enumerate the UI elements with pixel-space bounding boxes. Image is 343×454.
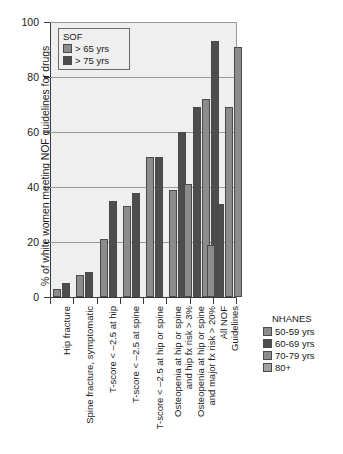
y-tick-label: 80 — [0, 72, 39, 83]
bar — [155, 157, 163, 297]
bar — [225, 107, 233, 297]
x-tick-mark — [73, 298, 74, 304]
y-tick-label: 100 — [0, 17, 39, 28]
x-tick-mark — [236, 298, 237, 304]
y-tick-label: 40 — [0, 182, 39, 193]
x-category-label-line: Spine fracture, symptomatic — [85, 306, 96, 424]
bar — [109, 201, 117, 297]
bar — [216, 204, 224, 298]
bar-chart-figure: % of white women meeting NOF guidelines … — [0, 0, 343, 454]
x-category-label-line: T-score < –2.5 at hip — [108, 306, 119, 393]
legend-nhanes-entry-3: 80+ — [263, 362, 341, 373]
legend-swatch-icon — [63, 56, 72, 65]
legend-swatch-icon — [263, 339, 272, 348]
x-tick-mark — [213, 298, 214, 304]
x-category-label-line: T-score < –2.5 at hip or spine — [155, 306, 166, 429]
x-category-label-line: and major fx risk > 20% — [207, 306, 218, 417]
bar — [207, 245, 215, 297]
bar — [85, 272, 93, 297]
x-tick-mark — [97, 298, 98, 304]
legend-nhanes-label-3: 80+ — [275, 362, 291, 373]
legend-swatch-icon — [263, 351, 272, 360]
legend-nhanes-entry-2: 70-79 yrs — [263, 350, 341, 361]
legend-nhanes-entry-1: 60-69 yrs — [263, 338, 341, 349]
x-category-label: Osteopenia at hip or spineand major fx r… — [196, 306, 217, 417]
x-category-label: T-score < –2.5 at spine — [131, 306, 142, 403]
bar — [76, 275, 84, 297]
bar — [53, 289, 61, 297]
y-tick-label: 60 — [0, 127, 39, 138]
x-category-label: Osteopenia at hip or spineand hip fx ris… — [173, 306, 194, 417]
bar — [132, 193, 140, 298]
y-tick-label: 0 — [0, 292, 39, 303]
legend-nhanes-entry-0: 50-59 yrs — [263, 326, 341, 337]
y-tick-label: 20 — [0, 237, 39, 248]
x-category-label: Spine fracture, symptomatic — [85, 306, 96, 424]
x-category-label: T-score < –2.5 at hip or spine — [155, 306, 166, 429]
bar — [184, 184, 192, 297]
legend-swatch-icon — [63, 44, 72, 53]
legend-nhanes-label-1: 60-69 yrs — [275, 338, 315, 349]
bar — [100, 239, 108, 297]
x-tick-mark — [190, 298, 191, 304]
legend-sof-title: SOF — [63, 31, 125, 42]
legend-nhanes-label-2: 70-79 yrs — [275, 350, 315, 361]
x-category-label-line: Osteopenia at hip or spine — [173, 306, 184, 417]
x-tick-mark — [143, 298, 144, 304]
x-category-label: All NOFGuidelines — [219, 306, 240, 351]
bar — [169, 190, 177, 297]
bar — [123, 206, 131, 297]
bar — [62, 283, 70, 297]
legend-sof-entry-1: > 75 yrs — [63, 55, 125, 66]
x-category-label-line: T-score < –2.5 at spine — [131, 306, 142, 403]
bar — [234, 47, 242, 297]
legend-nhanes: NHANES 50-59 yrs 60-69 yrs 70-79 yrs 80+ — [263, 313, 341, 373]
legend-swatch-icon — [263, 363, 272, 372]
legend-sof-label-1: > 75 yrs — [75, 55, 109, 66]
x-category-label-line: Hip fracture — [62, 306, 73, 355]
legend-sof-entry-0: > 65 yrs — [63, 43, 125, 54]
x-tick-mark — [50, 298, 51, 304]
bar — [193, 107, 201, 297]
x-tick-mark — [120, 298, 121, 304]
x-category-label: Hip fracture — [62, 306, 73, 355]
x-category-label: T-score < –2.5 at hip — [108, 306, 119, 393]
legend-swatch-icon — [263, 327, 272, 336]
x-tick-mark — [166, 298, 167, 304]
legend-nhanes-title: NHANES — [272, 313, 341, 325]
legend-sof: SOF > 65 yrs > 75 yrs — [58, 28, 130, 70]
x-category-label-line: and hip fx risk > 3% — [183, 306, 194, 417]
legend-sof-label-0: > 65 yrs — [75, 43, 109, 54]
x-category-label-line: Guidelines — [230, 306, 241, 351]
bar — [146, 157, 154, 297]
legend-nhanes-label-0: 50-59 yrs — [275, 326, 315, 337]
